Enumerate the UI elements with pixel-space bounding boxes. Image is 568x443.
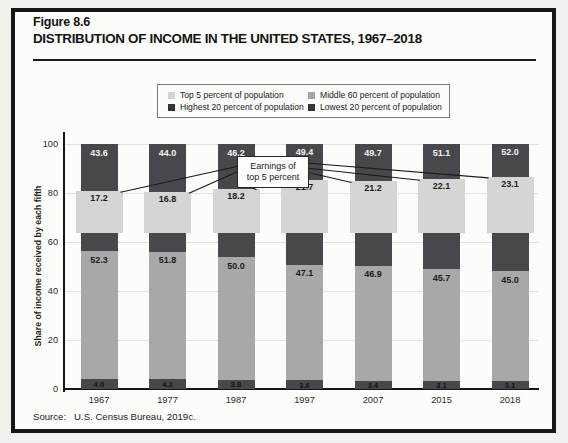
middle60-swatch-icon xyxy=(308,92,315,99)
y-tick-label: 100 xyxy=(36,139,58,149)
title-divider xyxy=(33,59,536,61)
callout-text-line1: Earnings of xyxy=(250,161,296,172)
value-label-top5: 23.1 xyxy=(487,179,534,189)
x-tick-label: 1997 xyxy=(281,395,328,405)
figure-number: Figure 8.6 xyxy=(33,15,90,29)
value-label-highest20: 52.0 xyxy=(487,147,534,157)
value-label-lowest20: 4.2 xyxy=(144,380,191,389)
chart-legend: Top 5 percent of population Middle 60 pe… xyxy=(157,84,450,118)
top5-swatch-icon xyxy=(168,92,175,99)
value-label-middle60: 45.7 xyxy=(418,273,465,283)
legend-item-middle60: Middle 60 percent of population xyxy=(308,90,449,100)
x-tick-label: 1977 xyxy=(144,395,191,405)
value-label-lowest20: 3.4 xyxy=(350,381,397,390)
legend-label-top5: Top 5 percent of population xyxy=(180,90,284,100)
value-label-lowest20: 3.1 xyxy=(418,381,465,390)
value-label-highest20: 44.0 xyxy=(144,148,191,158)
value-label-middle60: 52.3 xyxy=(76,255,123,265)
value-label-highest20: 51.1 xyxy=(418,148,465,158)
value-label-middle60: 51.8 xyxy=(144,255,191,265)
value-label-middle60: 47.1 xyxy=(281,268,328,278)
value-label-top5: 16.8 xyxy=(144,194,191,204)
bar-segment-middle60 xyxy=(355,266,392,381)
value-label-top5: 21.2 xyxy=(350,183,397,193)
x-tick-label: 1967 xyxy=(76,395,123,405)
figure-title: DISTRIBUTION OF INCOME IN THE UNITED STA… xyxy=(33,31,422,46)
source-note: Source: U.S. Census Bureau, 2019c. xyxy=(33,411,196,422)
value-label-lowest20: 3.6 xyxy=(281,381,328,390)
x-tick-label: 2018 xyxy=(487,395,534,405)
legend-label-lowest20: Lowest 20 percent of population xyxy=(320,102,442,112)
x-tick-label: 2015 xyxy=(418,395,465,405)
callout-box: Earnings of top 5 percent xyxy=(237,156,309,188)
x-tick-label: 1987 xyxy=(213,395,260,405)
value-label-middle60: 46.9 xyxy=(350,269,397,279)
value-label-lowest20: 4.0 xyxy=(76,380,123,389)
source-text: U.S. Census Bureau, 2019c. xyxy=(74,411,196,422)
legend-item-lowest20: Lowest 20 percent of population xyxy=(308,102,449,112)
y-tick-label: 0 xyxy=(36,384,58,394)
legend-label-highest20: Highest 20 percent of population xyxy=(180,102,304,112)
bar-segment-middle60 xyxy=(81,251,118,379)
value-label-highest20: 49.7 xyxy=(350,148,397,158)
stacked-bar-chart: 02040608010043.617.252.34.0196744.016.85… xyxy=(0,0,568,443)
y-axis-line xyxy=(63,132,66,392)
value-label-lowest20: 3.8 xyxy=(213,380,260,389)
value-label-middle60: 45.0 xyxy=(487,275,534,285)
y-axis-title: Share of income received by each fifth xyxy=(33,186,43,347)
bar-segment-middle60 xyxy=(286,265,323,380)
value-label-lowest20: 3.1 xyxy=(487,381,534,390)
value-label-top5: 17.2 xyxy=(76,193,123,203)
bar-segment-middle60 xyxy=(492,271,529,381)
bar-segment-middle60 xyxy=(218,257,255,380)
legend-item-highest20: Highest 20 percent of population xyxy=(168,102,308,112)
legend-label-middle60: Middle 60 percent of population xyxy=(320,90,440,100)
value-label-highest20: 43.6 xyxy=(76,148,123,158)
x-tick-label: 2007 xyxy=(350,395,397,405)
callout-text-line2: top 5 percent xyxy=(247,172,300,183)
value-label-top5: 18.2 xyxy=(213,191,260,201)
source-label: Source: xyxy=(33,411,66,422)
bar-segment-middle60 xyxy=(423,269,460,381)
value-label-middle60: 50.0 xyxy=(213,261,260,271)
lowest20-swatch-icon xyxy=(308,104,315,111)
highest20-swatch-icon xyxy=(168,104,175,111)
value-label-top5: 22.1 xyxy=(418,181,465,191)
bar-segment-middle60 xyxy=(149,252,186,379)
legend-item-top5: Top 5 percent of population xyxy=(168,90,308,100)
